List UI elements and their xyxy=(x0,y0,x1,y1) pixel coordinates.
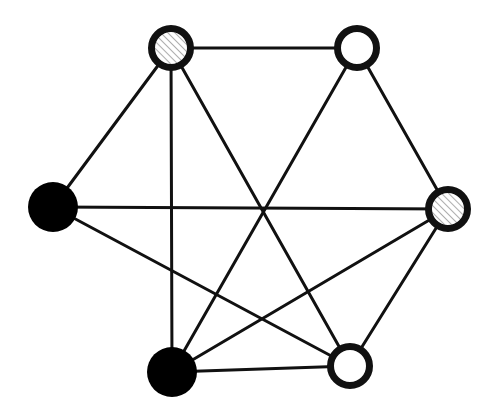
edge-A-C xyxy=(53,48,171,207)
node-F-empty xyxy=(331,347,370,386)
edge-A-E xyxy=(171,48,172,372)
edge-D-F xyxy=(350,209,448,366)
node-B-empty xyxy=(338,29,377,68)
edges-layer xyxy=(53,48,448,372)
node-C-filled xyxy=(28,182,78,232)
edge-D-E xyxy=(172,209,448,372)
node-D-hatched xyxy=(429,190,468,229)
edge-E-F xyxy=(172,366,350,372)
graph-svg xyxy=(0,0,500,410)
node-E-filled xyxy=(147,347,197,397)
node-A-hatched xyxy=(152,29,191,68)
graph-diagram xyxy=(0,0,500,410)
edge-C-D xyxy=(53,207,448,209)
edge-B-D xyxy=(357,48,448,209)
nodes-layer xyxy=(28,29,468,398)
